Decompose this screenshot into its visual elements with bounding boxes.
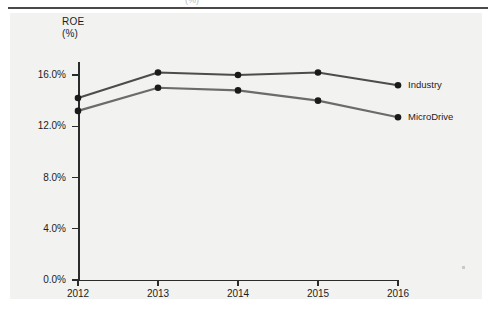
x-axis-tick [157,280,158,286]
y-axis-line [78,62,80,281]
y-axis-tick-label: 16.0% [14,70,66,80]
figure-root: (%) ROE (%) 0.0%4.0%8.0%12.0%16.0% 20122… [0,0,496,311]
x-axis-tick [237,280,238,286]
x-axis-tick-label: 2015 [292,288,344,299]
page-speck [462,266,465,269]
y-axis-tick-label: 8.0% [14,173,66,183]
y-axis-title-line2: (%) [62,28,84,40]
x-axis-tick-label: 2014 [212,288,264,299]
clipped-heading-text: (%) [185,0,325,5]
y-axis-tick [72,228,78,229]
x-axis-tick [77,280,78,286]
y-axis-tick-label: 0.0% [14,275,66,285]
x-axis-tick-label: 2016 [372,288,424,299]
y-axis-tick [72,74,78,75]
legend-label-industry: Industry [408,80,442,90]
legend-label-microdrive: MicroDrive [408,112,453,122]
y-axis-title-line1: ROE [62,16,84,28]
y-axis-tick-label: 12.0% [14,121,66,131]
chart-panel [10,13,482,299]
y-axis-tick-label: 4.0% [14,224,66,234]
y-axis-tick [72,126,78,127]
y-axis-tick [72,177,78,178]
y-axis-title: ROE (%) [62,16,84,40]
top-divider-rule [8,7,488,9]
x-axis-tick [317,280,318,286]
x-axis-tick [397,280,398,286]
x-axis-tick-label: 2012 [52,288,104,299]
x-axis-tick-label: 2013 [132,288,184,299]
